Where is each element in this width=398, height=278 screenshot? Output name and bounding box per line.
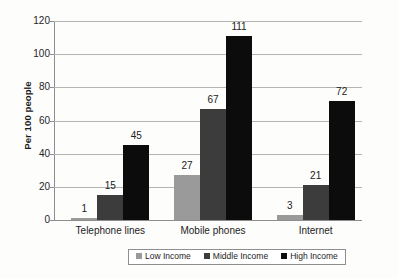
legend-swatch-icon	[281, 253, 287, 259]
y-tick-mark-100	[50, 54, 54, 55]
y-tick-label-40: 40	[24, 149, 50, 159]
legend-item-middle-income[interactable]: Middle Income	[204, 252, 268, 261]
bar-internet-middle-income	[303, 185, 329, 220]
y-tick-mark-40	[50, 154, 54, 155]
bar-telephone-low-income	[71, 218, 97, 220]
x-axis-label-internet: Internet	[256, 225, 376, 236]
legend-label: High Income	[290, 252, 338, 261]
bar-internet-low-income	[277, 215, 303, 220]
legend-label: Low Income	[145, 252, 191, 261]
y-tick-label-100: 100	[24, 49, 50, 59]
bar-value-telephone-high-income: 45	[116, 131, 156, 141]
legend-item-low-income[interactable]: Low Income	[136, 252, 191, 261]
y-axis-tick-labels: 120100806040200	[20, 0, 50, 278]
gridline-120	[54, 21, 362, 22]
y-tick-label-60: 60	[24, 116, 50, 126]
legend-item-high-income[interactable]: High Income	[281, 252, 338, 261]
legend-swatch-icon	[136, 253, 142, 259]
legend-label: Middle Income	[213, 252, 268, 261]
bar-value-mobile-high-income: 111	[219, 22, 259, 32]
bar-mobile-low-income	[174, 175, 200, 220]
bar-mobile-high-income	[226, 36, 252, 220]
y-tick-mark-120	[50, 21, 54, 22]
y-tick-mark-80	[50, 87, 54, 88]
y-tick-mark-60	[50, 121, 54, 122]
bar-internet-high-income	[329, 101, 355, 220]
bar-value-internet-high-income: 72	[322, 87, 362, 97]
y-tick-label-120: 120	[24, 16, 50, 26]
gridline-100	[54, 54, 362, 55]
y-tick-mark-20	[50, 187, 54, 188]
y-tick-label-20: 20	[24, 182, 50, 192]
y-tick-label-80: 80	[24, 82, 50, 92]
gridline-0	[54, 220, 362, 221]
plot-area: 11545276711132172	[54, 21, 362, 220]
chart-legend: Low IncomeMiddle IncomeHigh Income	[128, 249, 346, 265]
bar-telephone-middle-income	[97, 195, 123, 220]
gridline-80	[54, 87, 362, 88]
bar-mobile-middle-income	[200, 109, 226, 220]
bar-chart: Per 100 people 120100806040200 115452767…	[0, 0, 398, 278]
y-tick-mark-0	[50, 220, 54, 221]
legend-swatch-icon	[204, 253, 210, 259]
bar-telephone-high-income	[123, 145, 149, 220]
y-tick-label-0: 0	[24, 215, 50, 225]
